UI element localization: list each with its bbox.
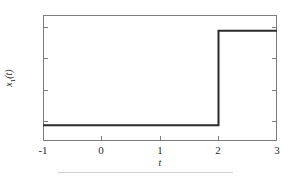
- x-tick-label-1: 1: [157, 144, 163, 156]
- x-tick-label-0: 0: [98, 144, 104, 156]
- footer-divider: [58, 172, 233, 173]
- step-signal-polyline: [43, 31, 277, 126]
- x-axis-label: t: [159, 157, 162, 168]
- data-series-x1: [43, 15, 277, 141]
- x-tick-label-2: 2: [215, 144, 221, 156]
- y-axis-label-variable: x: [3, 82, 14, 86]
- y-axis-label: x1(t): [3, 69, 17, 86]
- plot-area: [43, 15, 277, 141]
- figure-canvas: x1(t) 2 1 0 -1 -1 0 1 2 3 t: [0, 0, 290, 181]
- x-tick-label-neg1: -1: [38, 144, 47, 156]
- x-tick-label-3: 3: [274, 144, 280, 156]
- y-axis-label-subscript: 1: [9, 79, 17, 83]
- y-axis-label-argument: (t): [3, 69, 14, 78]
